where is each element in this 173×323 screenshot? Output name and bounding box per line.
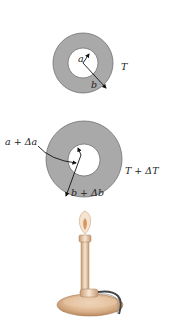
bunsen-burner bbox=[57, 211, 123, 316]
label-a-plus-delta-a: a + Δa bbox=[5, 136, 38, 147]
gas-inlet bbox=[80, 289, 98, 297]
label-T: T bbox=[121, 61, 128, 72]
ring-heated: a + Δa b + Δb T + ΔT bbox=[5, 121, 159, 198]
thermal-expansion-diagram: a b T a + Δa b + Δb T + ΔT bbox=[0, 0, 173, 323]
label-b: b bbox=[91, 79, 97, 90]
inner-radius-arrow bbox=[83, 54, 89, 63]
label-b-plus-delta-b: b + Δb bbox=[71, 187, 104, 198]
label-a: a bbox=[78, 53, 84, 64]
burner-tube bbox=[81, 238, 89, 296]
label-T-plus-delta-T: T + ΔT bbox=[125, 165, 159, 176]
inner-radius-arrow bbox=[78, 148, 81, 155]
burner-collar bbox=[79, 235, 91, 242]
ring-initial: a b T bbox=[53, 33, 128, 93]
